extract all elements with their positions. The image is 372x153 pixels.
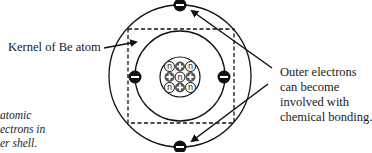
neutron: n [186,83,196,93]
neutron: n [175,72,185,82]
svg-text:n: n [167,83,172,92]
svg-text:n: n [188,83,193,92]
caption-line-2: ectrons in [0,122,45,136]
svg-text:n: n [177,73,182,82]
kernel-label: Kernel of Be atom [8,40,101,55]
svg-text:n: n [188,62,193,71]
kernel-arrow [104,42,136,48]
caption-line-1: atomic [0,108,31,122]
proton [175,83,185,93]
outer-label-line-3: involved with [280,95,349,110]
caption-line-3: er shell. [0,136,37,150]
electron-outer-bottom [174,141,187,153]
electron-outer-top [174,0,187,12]
outer-label-line-4: chemical bonding. [280,110,372,125]
nucleus: nnnnn [165,62,196,93]
outer-arrow-bottom [192,84,268,141]
outer-label-line-1: Outer electrons [280,65,357,80]
outer-arrow-top [192,11,272,68]
neutron: n [165,62,175,72]
electron-inner-left [129,71,142,84]
neutron: n [165,83,175,93]
svg-text:n: n [167,62,172,71]
proton [175,62,185,72]
electron-inner-right [218,71,231,84]
proton [165,72,175,82]
neutron: n [186,62,196,72]
proton [186,72,196,82]
outer-label-line-2: can become [280,80,339,95]
